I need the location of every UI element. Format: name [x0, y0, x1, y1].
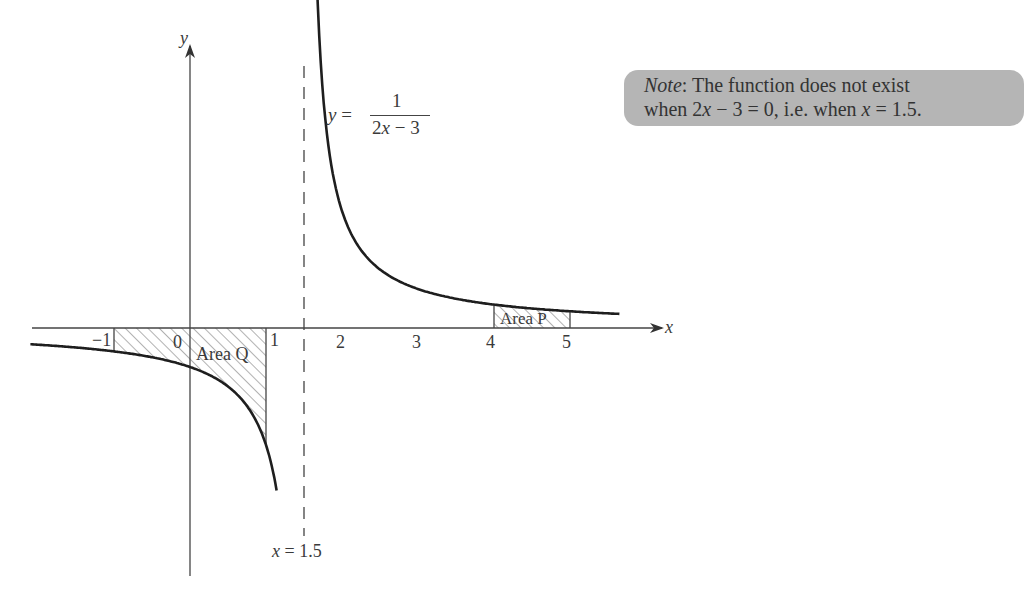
- area-q-label: Area Q: [196, 344, 248, 365]
- tick-label-3: 3: [412, 332, 421, 353]
- tick-label-2: 2: [336, 332, 345, 353]
- y-axis-label: y: [180, 28, 188, 49]
- tick-label-1: 1: [270, 330, 279, 351]
- tick-label-neg1: −1: [92, 330, 111, 351]
- tick-label-0: 0: [173, 332, 182, 353]
- tick-label-5: 5: [562, 332, 571, 353]
- note-box: Note: The function does not exist when 2…: [624, 70, 1024, 126]
- note-line-1: Note: The function does not exist: [644, 73, 1024, 97]
- equation-numerator: 1: [392, 90, 402, 112]
- fraction-bar: [370, 115, 430, 116]
- tick-label-4: 4: [486, 332, 495, 353]
- area-p-label: Area P: [500, 309, 547, 329]
- equation-denominator: 2x − 3: [372, 117, 420, 139]
- curve-right-branch: [316, 0, 619, 314]
- note-line-2: when 2x − 3 = 0, i.e. when x = 1.5.: [644, 97, 1024, 121]
- x-axis-label: x: [665, 317, 673, 338]
- asymptote-label: x = 1.5: [272, 541, 322, 562]
